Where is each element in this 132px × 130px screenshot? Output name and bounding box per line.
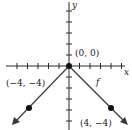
right-branch	[69, 66, 125, 122]
point-4-neg4	[108, 105, 114, 111]
point-label-4-neg4: (4, −4)	[80, 118, 112, 128]
point-label-origin: (0, 0)	[75, 48, 99, 58]
point-neg4-neg4	[26, 105, 32, 111]
y-axis-label: y	[71, 0, 78, 10]
left-branch	[15, 66, 69, 122]
function-graph: y x (0, 0) (−4, −4) (4, −4) f	[0, 0, 132, 130]
point-label-neg4-neg4: (−4, −4)	[6, 78, 45, 88]
function-label: f	[95, 77, 101, 87]
x-axis-label: x	[124, 67, 129, 77]
point-origin	[66, 63, 72, 69]
